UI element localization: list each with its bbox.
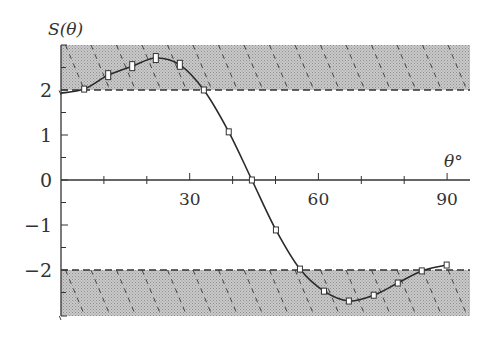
data-point-marker: [419, 268, 424, 274]
data-point-marker: [226, 129, 231, 135]
data-point-marker: [201, 87, 206, 93]
data-point-marker: [177, 60, 182, 69]
x-axis: [61, 173, 470, 184]
data-point-marker: [273, 227, 278, 233]
data-point-marker: [321, 288, 326, 294]
y-tick-labels: −2−1012: [24, 79, 52, 281]
series-markers: [82, 54, 450, 304]
y-tick-label: 2: [40, 79, 52, 101]
y-tick-label: −1: [24, 214, 52, 236]
data-point-marker: [82, 86, 87, 92]
data-point-marker: [444, 262, 449, 268]
y-axis-title: S(θ): [48, 19, 83, 39]
data-point-marker: [371, 292, 376, 298]
x-tick-label: 90: [436, 189, 458, 209]
data-point-marker: [130, 62, 135, 71]
x-tick-label: 60: [308, 189, 330, 209]
data-point-marker: [249, 177, 254, 183]
y-tick-label: 0: [40, 169, 52, 191]
data-point-marker: [395, 280, 400, 286]
data-point-marker: [153, 54, 158, 63]
data-point-marker: [106, 71, 111, 80]
x-tick-labels: 306090: [179, 189, 458, 209]
y-tick-label: −2: [24, 259, 52, 281]
data-point-marker: [297, 266, 302, 272]
data-point-marker: [346, 298, 351, 304]
chart-root: −2−1012 306090 S(θ) θ°: [0, 0, 504, 337]
y-tick-label: 1: [40, 124, 52, 146]
x-axis-title: θ°: [444, 151, 463, 171]
x-tick-label: 30: [179, 189, 201, 209]
